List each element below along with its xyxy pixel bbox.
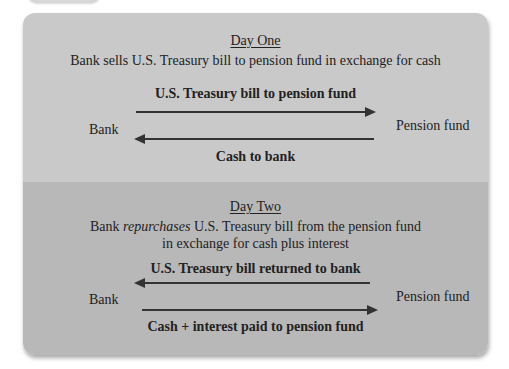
- day-two-title: Day Two: [23, 199, 488, 215]
- desc-suffix: U.S. Treasury bill from the pension fund: [190, 219, 421, 234]
- day-two-description-line2: in exchange for cash plus interest: [23, 236, 488, 252]
- desc-prefix: Bank: [90, 219, 123, 234]
- arrow-left-icon: [136, 282, 370, 284]
- day-one-section: Day One Bank sells U.S. Treasury bill to…: [23, 13, 488, 182]
- day-two-bottom-arrow-label: Cash + interest paid to pension fund: [23, 319, 488, 335]
- day-one-bottom-arrow-label: Cash to bank: [23, 149, 488, 165]
- day-one-description: Bank sells U.S. Treasury bill to pension…: [23, 53, 488, 69]
- day-one-pension-fund-label: Pension fund: [396, 118, 470, 134]
- desc-emphasis: repurchases: [123, 219, 190, 234]
- day-two-pension-fund-label: Pension fund: [396, 289, 470, 305]
- day-one-top-arrow-label: U.S. Treasury bill to pension fund: [23, 86, 488, 102]
- repo-diagram-card: Day One Bank sells U.S. Treasury bill to…: [23, 13, 488, 355]
- arrow-right-icon: [136, 111, 374, 113]
- arrow-left-icon: [136, 138, 374, 140]
- day-two-top-arrow-label: U.S. Treasury bill returned to bank: [23, 261, 488, 277]
- day-two-section: Day Two Bank repurchases U.S. Treasury b…: [23, 182, 488, 355]
- arrow-right-icon: [142, 309, 376, 311]
- day-two-description-line1: Bank repurchases U.S. Treasury bill from…: [23, 219, 488, 235]
- day-one-title: Day One: [23, 33, 488, 49]
- day-one-bank-label: Bank: [89, 122, 119, 138]
- top-tab-remnant: [27, 0, 101, 3]
- day-two-bank-label: Bank: [89, 292, 119, 308]
